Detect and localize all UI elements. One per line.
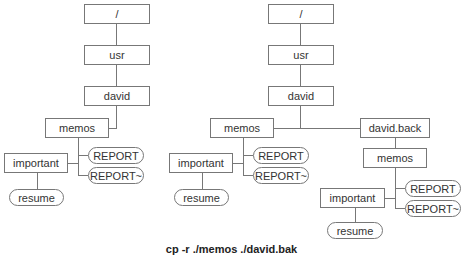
dir-memos: memos: [45, 118, 109, 138]
connector: [274, 128, 360, 129]
file-resume: resume: [9, 189, 64, 206]
connector: [116, 65, 117, 86]
connector: [78, 175, 88, 176]
file-report-backup: REPORT~: [253, 167, 309, 184]
file-back-report-backup: REPORT~: [405, 200, 461, 217]
dir-usr: usr: [268, 45, 334, 65]
connector: [233, 163, 243, 164]
connector: [78, 155, 88, 156]
dir-david-back: david.back: [360, 118, 430, 138]
dir-important: important: [169, 153, 233, 173]
connector: [243, 175, 253, 176]
file-back-resume: resume: [327, 222, 383, 239]
connector: [202, 173, 203, 189]
connector: [355, 208, 356, 222]
connector: [385, 198, 395, 199]
dir-back-memos: memos: [363, 148, 427, 168]
connector: [68, 163, 78, 164]
dir-david: david: [84, 86, 150, 106]
connector: [243, 138, 244, 175]
dir-root: /: [84, 4, 150, 24]
dir-usr: usr: [84, 45, 150, 65]
dir-memos: memos: [210, 118, 274, 138]
command-caption: cp -r ./memos ./david.bak: [0, 243, 463, 255]
file-report-backup: REPORT~: [88, 167, 144, 184]
dir-david: david: [268, 86, 334, 106]
connector: [300, 106, 301, 128]
connector: [395, 208, 405, 209]
connector: [116, 106, 117, 128]
connector: [300, 24, 301, 45]
file-resume: resume: [174, 189, 229, 206]
dir-back-important: important: [320, 188, 385, 208]
file-report: REPORT: [253, 147, 309, 164]
connector: [37, 173, 38, 189]
connector: [395, 138, 396, 148]
connector: [116, 24, 117, 45]
connector: [109, 128, 117, 129]
connector: [243, 155, 253, 156]
dir-root: /: [268, 4, 334, 24]
connector: [78, 138, 79, 175]
connector: [300, 65, 301, 86]
connector: [395, 188, 405, 189]
file-back-report: REPORT: [405, 180, 461, 197]
file-report: REPORT: [88, 147, 144, 164]
dir-important: important: [4, 153, 68, 173]
